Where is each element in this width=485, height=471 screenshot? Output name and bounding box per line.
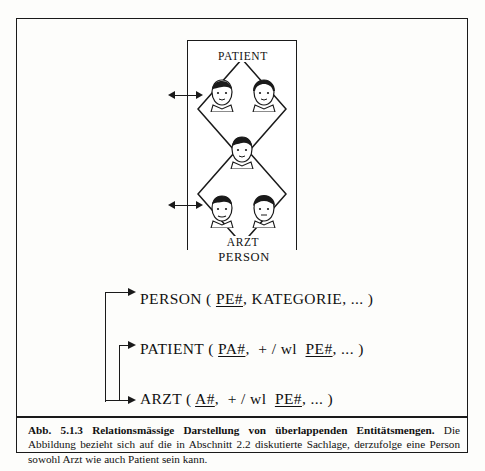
relation-arzt-mid: , + / wl: [215, 390, 275, 407]
relation-patient-rest: , ... ): [333, 340, 364, 357]
patient-set-label: PATIENT: [194, 50, 292, 62]
connector-arzt-branch: [105, 400, 130, 401]
figure-caption: Abb. 5.1.3 Relationsmässige Darstellung …: [28, 423, 460, 466]
connector-person-branch: [105, 292, 129, 293]
patient-arrow-head-right: [196, 91, 203, 99]
relation-patient: PATIENT ( PA#, + / wl PE#, ... ): [140, 340, 364, 358]
relation-patient-open: (: [204, 340, 218, 357]
relation-arzt-rest: , ... ): [302, 390, 333, 407]
relation-person: PERSON ( PE#, KATEGORIE, ... ): [140, 290, 373, 308]
patient-face-2-icon: [249, 78, 279, 116]
relation-arzt: ARZT ( A#, + / wl PE#, ... ): [140, 390, 333, 408]
arzt-arrow-head-right: [196, 201, 203, 209]
relation-patient-name: PATIENT: [140, 340, 204, 357]
relation-arzt-open: (: [182, 390, 195, 407]
relation-arzt-key: A#: [195, 390, 215, 407]
relation-arzt-name: ARZT: [140, 390, 182, 407]
overlap-face-icon: [227, 135, 257, 173]
connector-patient-arrow: [128, 341, 136, 349]
caption-number: Abb. 5.1.3: [28, 424, 83, 436]
connector-arzt-arrow: [128, 396, 136, 404]
connector-trunk: [105, 292, 106, 402]
arzt-set-label: ARZT: [194, 236, 292, 248]
connector-sub-trunk: [119, 345, 120, 401]
relation-patient-key: PA#: [218, 340, 245, 357]
caption-divider: [16, 416, 468, 418]
person-set-label: PERSON: [187, 250, 301, 265]
relation-person-open: (: [202, 290, 216, 307]
caption-title: Relationsmässige Darstellung von überlap…: [92, 424, 434, 436]
relation-person-rest: , KATEGORIE, ... ): [243, 290, 373, 307]
relation-person-name: PERSON: [140, 290, 202, 307]
figure-page: PERSON PATIENT ARZT: [0, 0, 485, 471]
arzt-arrow-head-left: [168, 201, 175, 209]
relation-arzt-foreign-key: PE#: [275, 390, 302, 407]
relation-person-key: PE#: [216, 290, 243, 307]
relation-patient-mid: , + / wl: [245, 340, 305, 357]
arzt-face-1-icon: [207, 194, 237, 232]
connector-person-arrow: [128, 288, 136, 296]
arzt-face-2-icon: [249, 194, 279, 232]
patient-arrow-head-left: [168, 91, 175, 99]
relation-patient-foreign-key: PE#: [306, 340, 333, 357]
patient-face-1-icon: [207, 78, 237, 116]
